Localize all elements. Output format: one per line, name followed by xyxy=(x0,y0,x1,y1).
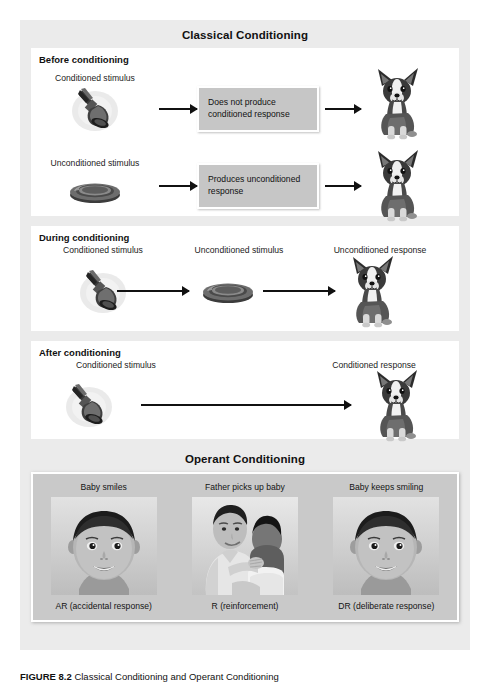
bell-icon xyxy=(68,85,122,133)
food-bowl-icon xyxy=(68,178,122,204)
panel-before-conditioning: Before conditioning Conditioned stimulus… xyxy=(31,48,459,216)
label-unconditioned-stimulus: Unconditioned stimulus xyxy=(51,158,140,168)
label-conditioned-stimulus: Conditioned stimulus xyxy=(55,73,135,83)
panel-heading-after: After conditioning xyxy=(31,341,459,358)
during-icons-row xyxy=(31,255,459,327)
panel-heading-during: During conditioning xyxy=(31,226,459,243)
arrow-stimulus-to-box xyxy=(159,108,197,110)
textbox-does-not-produce: Does not produce conditioned response xyxy=(197,86,319,131)
panel-after-conditioning: After conditioning Conditioned stimulus … xyxy=(31,341,459,439)
dog-icon xyxy=(343,254,401,328)
figure-container: Classical Conditioning Before conditioni… xyxy=(20,20,470,650)
baby-smiling-photo xyxy=(51,497,157,595)
figure-caption: FIGURE 8.2 Classical Conditioning and Op… xyxy=(20,671,472,683)
label-during-conditioned-stimulus: Conditioned stimulus xyxy=(37,245,169,255)
textbox-produces-unconditioned: Produces unconditioned response xyxy=(197,163,319,208)
caption-baby-keeps-smiling: Baby keeps smiling xyxy=(349,482,423,492)
operant-photo-grid: Baby smiles AR (accidental response) Fat… xyxy=(33,482,457,611)
figure-caption-text: Classical Conditioning and Operant Condi… xyxy=(74,671,278,682)
arrow-bowl-to-dog xyxy=(263,290,335,292)
dog-icon xyxy=(368,148,426,222)
before-row-unconditioned: Unconditioned stimulus Produces uncondit… xyxy=(31,139,459,223)
baby-smiling-photo xyxy=(333,497,439,595)
bell-icon xyxy=(62,381,116,429)
before-row-conditioned: Conditioned stimulus Does not produce co… xyxy=(31,65,459,139)
caption-baby-smiles: Baby smiles xyxy=(80,482,126,492)
caption-father-picks-up-baby: Father picks up baby xyxy=(205,482,285,492)
classical-conditioning-title: Classical Conditioning xyxy=(20,20,470,48)
operant-item-accidental-response: Baby smiles AR (accidental response) xyxy=(38,482,170,611)
caption-deliberate-response: DR (deliberate response) xyxy=(338,601,434,611)
panel-operant-conditioning: Baby smiles AR (accidental response) Fat… xyxy=(31,472,459,622)
label-after-conditioned-stimulus: Conditioned stimulus xyxy=(41,360,191,370)
operant-item-deliberate-response: Baby keeps smiling DR (deliberate respon… xyxy=(320,482,452,611)
caption-reinforcement: R (reinforcement) xyxy=(212,601,279,611)
arrow-bell-to-bowl xyxy=(117,290,189,292)
after-icons-row xyxy=(31,370,459,440)
food-bowl-icon xyxy=(201,278,255,304)
operant-conditioning-title: Operant Conditioning xyxy=(20,449,470,472)
arrow-box-to-response-2 xyxy=(325,185,361,187)
panel-heading-before: Before conditioning xyxy=(31,48,459,65)
arrow-box-to-response xyxy=(325,108,361,110)
caption-accidental-response: AR (accidental response) xyxy=(55,601,152,611)
arrow-stimulus-to-box-2 xyxy=(159,185,197,187)
operant-item-reinforcement: Father picks up baby R (reinforcement) xyxy=(179,482,311,611)
panel-during-conditioning: During conditioning Conditioned stimulus… xyxy=(31,226,459,331)
figure-number: FIGURE 8.2 xyxy=(20,671,72,682)
dog-icon xyxy=(367,368,425,442)
father-holding-baby-photo xyxy=(192,497,298,595)
dog-icon xyxy=(368,66,426,140)
arrow-bell-to-dog-long xyxy=(141,404,351,406)
